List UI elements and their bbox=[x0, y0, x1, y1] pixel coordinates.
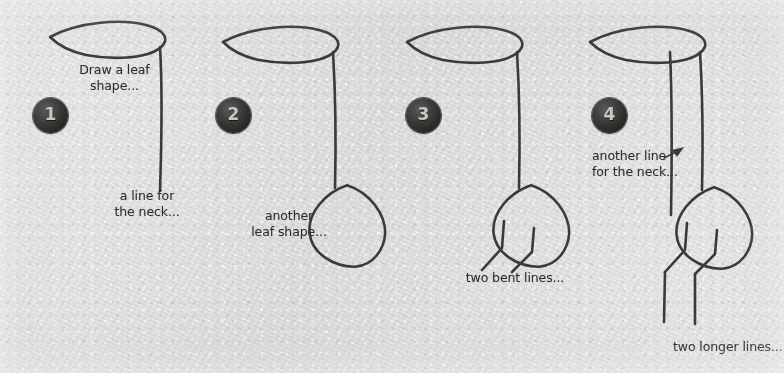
body-leaf-shape-3 bbox=[485, 178, 581, 276]
step-1-drawing bbox=[50, 22, 165, 191]
leaf-head-shape-1 bbox=[50, 22, 165, 58]
step-badge-3[interactable]: 3 bbox=[406, 98, 441, 133]
longer-leg-left-4 bbox=[664, 272, 665, 322]
note-two-bent-lines: two bent lines... bbox=[455, 270, 575, 286]
step-badge-1[interactable]: 1 bbox=[33, 98, 68, 133]
leaf-head-shape-4 bbox=[590, 27, 705, 63]
tutorial-sheet: 1 Draw a leaf shape... a line for the ne… bbox=[0, 0, 784, 373]
body-leaf-shape-4 bbox=[668, 180, 764, 278]
tutorial-drawings bbox=[0, 0, 784, 373]
neck-line-4 bbox=[700, 52, 702, 190]
second-neck-line-4 bbox=[670, 52, 672, 215]
step-badge-2-number: 2 bbox=[228, 106, 240, 123]
note-another-line-for-the-neck: another line for the neck... bbox=[592, 148, 692, 180]
step-badge-4[interactable]: 4 bbox=[592, 98, 627, 133]
neck-line-2 bbox=[333, 52, 335, 188]
note-two-longer-lines: two longer lines... bbox=[673, 339, 784, 355]
step-badge-1-number: 1 bbox=[45, 106, 57, 123]
step-badge-3-number: 3 bbox=[418, 106, 430, 123]
step-3-drawing bbox=[407, 27, 581, 275]
neck-line-3 bbox=[517, 52, 519, 188]
note-another-leaf-shape: another leaf shape... bbox=[235, 208, 343, 240]
leaf-head-shape-2 bbox=[223, 27, 338, 63]
note-a-line-for-the-neck: a line for the neck... bbox=[98, 188, 196, 220]
leaf-head-shape-3 bbox=[407, 27, 522, 63]
step-badge-2[interactable]: 2 bbox=[216, 98, 251, 133]
step-badge-4-number: 4 bbox=[604, 106, 616, 123]
note-draw-a-leaf-shape: Draw a leaf shape... bbox=[62, 62, 167, 94]
